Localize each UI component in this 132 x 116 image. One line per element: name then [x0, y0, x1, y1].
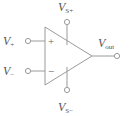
output-terminal-node: [114, 53, 119, 58]
opamp-schematic-figure: V+ V− VS+ VS− Vout + −: [0, 0, 132, 116]
output-subscript: out: [105, 43, 114, 51]
inverting-input-label: V−: [3, 65, 14, 77]
negative-supply-terminal-node: [64, 87, 69, 92]
opamp-circuit-drawing: [0, 0, 132, 116]
non-inverting-input-terminal-node: [25, 38, 30, 43]
inverting-minus-sign: −: [48, 66, 54, 77]
output-label: Vout: [98, 37, 114, 49]
non-inverting-input-label: V+: [3, 35, 14, 47]
non-inverting-input-subscript: +: [10, 41, 14, 49]
positive-supply-terminal-node: [64, 19, 69, 24]
inverting-input-subscript: −: [10, 71, 14, 79]
non-inverting-plus-sign: +: [48, 36, 54, 47]
positive-supply-subscript: S+: [65, 7, 73, 15]
negative-supply-subscript: S−: [65, 107, 73, 115]
negative-supply-label: VS−: [58, 101, 73, 113]
inverting-input-terminal-node: [25, 68, 30, 73]
positive-supply-label: VS+: [58, 1, 73, 13]
